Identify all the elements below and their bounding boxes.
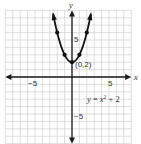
y-axis-down-arrow-icon	[69, 138, 75, 144]
data-point	[63, 53, 67, 57]
y-tick-label-neg5: −5	[74, 112, 84, 121]
data-point	[85, 30, 89, 34]
equation-label: y = x2 + 2	[86, 94, 120, 104]
x-tick-label-5: 5	[108, 79, 113, 88]
x-axis-right-arrow-icon	[125, 74, 131, 80]
y-tick-label-5: 5	[74, 35, 79, 44]
axes	[5, 10, 131, 143]
y-axis-up-arrow-icon	[69, 10, 75, 16]
x-axis-left-arrow-icon	[5, 74, 11, 80]
data-point	[77, 53, 81, 57]
x-tick-label-neg5: −5	[28, 79, 38, 88]
data-point	[70, 60, 74, 64]
data-point	[55, 30, 59, 34]
curve-right-arrow-icon	[87, 12, 92, 20]
parabola-graph: x y −5 5 5 −5 (0,2) y = x2 + 2	[0, 0, 141, 144]
curve-left-arrow-icon	[52, 12, 57, 20]
y-axis-label: y	[68, 0, 73, 10]
vertex-annotation: (0,2)	[75, 60, 92, 69]
x-axis-label: x	[133, 72, 138, 82]
